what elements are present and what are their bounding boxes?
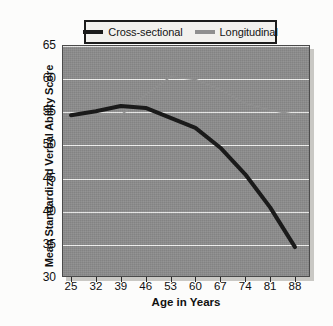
- y-tick-label: 55: [18, 104, 56, 118]
- y-tick-label: 65: [18, 38, 56, 52]
- y-tick-label: 30: [18, 270, 56, 284]
- figure-container: Cross-sectional Longitudinal Mean Standa…: [0, 0, 333, 326]
- x-tick-label: 88: [280, 280, 310, 292]
- x-axis-title: Age in Years: [62, 296, 310, 308]
- y-tick-label: 40: [18, 204, 56, 218]
- y-tick-label: 60: [18, 71, 56, 85]
- y-tick-label: 50: [18, 137, 56, 151]
- y-tick-label: 35: [18, 237, 56, 251]
- y-axis-ticks: 6560555045403530: [0, 0, 333, 326]
- y-tick-label: 45: [18, 171, 56, 185]
